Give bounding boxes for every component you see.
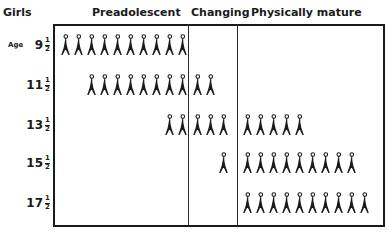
age-row-label: 1312 — [26, 117, 50, 133]
mature-figure-icon — [360, 192, 369, 214]
preadolescent-figure-icon — [152, 34, 161, 56]
preadolescent-figure-icon — [87, 74, 96, 96]
preadolescent-figure-icon — [126, 74, 135, 96]
changing-group — [219, 152, 232, 174]
changing-group — [193, 114, 232, 136]
mature-figure-icon — [243, 192, 252, 214]
chart-title: Girls — [3, 6, 32, 19]
preadolescent-figure-icon — [87, 34, 96, 56]
age-row-label: 912 — [35, 37, 50, 53]
preadolescent-figure-icon — [178, 114, 187, 136]
divider-preadolescent-changing — [188, 24, 189, 225]
mature-figure-icon — [347, 152, 356, 174]
mature-figure-icon — [282, 114, 291, 136]
preadolescent-figure-icon — [74, 34, 83, 56]
age-fraction: 12 — [45, 195, 50, 211]
column-header-physically-mature: Physically mature — [251, 6, 362, 19]
mature-figure-icon — [282, 192, 291, 214]
age-whole: 13 — [26, 118, 43, 132]
divider-changing-mature — [237, 24, 238, 225]
preadolescent-figure-icon — [113, 74, 122, 96]
mature-figure-icon — [308, 192, 317, 214]
age-row-label: 1512 — [26, 155, 50, 171]
preadolescent-figure-icon — [178, 74, 187, 96]
age-fraction: 12 — [45, 117, 50, 133]
preadolescent-figure-icon — [61, 34, 70, 56]
mature-figure-icon — [334, 192, 343, 214]
mature-group — [243, 152, 360, 174]
changing-figure-icon — [206, 114, 215, 136]
fraction-denominator: 2 — [45, 204, 50, 211]
age-fraction: 12 — [45, 77, 50, 93]
changing-figure-icon — [193, 114, 202, 136]
age-whole: 15 — [26, 156, 43, 170]
age-whole: 11 — [26, 78, 43, 92]
mature-figure-icon — [295, 152, 304, 174]
preadolescent-figure-icon — [165, 114, 174, 136]
mature-figure-icon — [269, 152, 278, 174]
age-whole: 9 — [35, 38, 43, 52]
mature-figure-icon — [269, 114, 278, 136]
preadolescent-figure-icon — [100, 34, 109, 56]
changing-figure-icon — [219, 152, 228, 174]
preadolescent-figure-icon — [165, 74, 174, 96]
age-fraction: 12 — [45, 155, 50, 171]
preadolescent-figure-icon — [139, 74, 148, 96]
preadolescent-group — [87, 74, 187, 96]
preadolescent-group — [165, 114, 187, 136]
fraction-denominator: 2 — [45, 126, 50, 133]
changing-figure-icon — [206, 74, 215, 96]
age-whole: 17 — [26, 196, 43, 210]
mature-figure-icon — [295, 192, 304, 214]
mature-figure-icon — [269, 192, 278, 214]
mature-figure-icon — [321, 192, 330, 214]
age-fraction: 12 — [45, 37, 50, 53]
preadolescent-figure-icon — [126, 34, 135, 56]
fraction-numerator: 1 — [45, 155, 50, 162]
mature-figure-icon — [334, 152, 343, 174]
mature-figure-icon — [256, 192, 265, 214]
preadolescent-figure-icon — [113, 34, 122, 56]
mature-figure-icon — [321, 152, 330, 174]
fraction-denominator: 2 — [45, 86, 50, 93]
fraction-denominator: 2 — [45, 164, 50, 171]
preadolescent-figure-icon — [165, 34, 174, 56]
preadolescent-figure-icon — [178, 34, 187, 56]
preadolescent-group — [61, 34, 187, 56]
fraction-numerator: 1 — [45, 77, 50, 84]
fraction-numerator: 1 — [45, 37, 50, 44]
column-header-preadolescent: Preadolescent — [92, 6, 181, 19]
fraction-numerator: 1 — [45, 195, 50, 202]
mature-figure-icon — [256, 152, 265, 174]
mature-figure-icon — [347, 192, 356, 214]
column-header-changing: Changing — [191, 6, 250, 19]
mature-figure-icon — [256, 114, 265, 136]
age-row-label: 1712 — [26, 195, 50, 211]
changing-figure-icon — [193, 74, 202, 96]
preadolescent-figure-icon — [100, 74, 109, 96]
fraction-numerator: 1 — [45, 117, 50, 124]
mature-figure-icon — [243, 152, 252, 174]
mature-group — [243, 114, 308, 136]
age-row-label: 1112 — [26, 77, 50, 93]
mature-group — [243, 192, 373, 214]
mature-figure-icon — [308, 152, 317, 174]
fraction-denominator: 2 — [45, 46, 50, 53]
changing-group — [193, 74, 219, 96]
changing-figure-icon — [219, 114, 228, 136]
age-axis-label: Age — [8, 41, 23, 49]
mature-figure-icon — [243, 114, 252, 136]
preadolescent-figure-icon — [152, 74, 161, 96]
mature-figure-icon — [282, 152, 291, 174]
mature-figure-icon — [295, 114, 304, 136]
preadolescent-figure-icon — [139, 34, 148, 56]
